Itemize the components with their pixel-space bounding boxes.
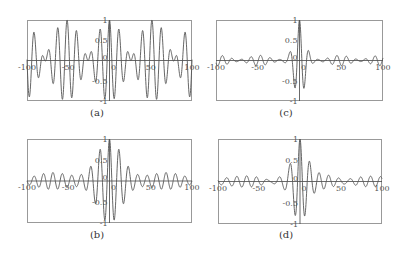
x-tick-label: 100: [184, 63, 199, 72]
y-tick-label: 1: [102, 135, 107, 144]
y-tick-label: 1: [292, 16, 297, 25]
y-tick-label: -1: [100, 97, 108, 106]
x-tick-label: -50: [62, 63, 75, 72]
y-tick-label: 0: [102, 173, 107, 182]
x-tick-label: -50: [251, 63, 264, 72]
y-tick-label: 0.5: [95, 156, 108, 165]
x-tick-label: 50: [336, 184, 346, 193]
caption-a: (a): [82, 107, 112, 118]
x-tick-label: 0: [111, 63, 116, 72]
y-tick-label: -0.5: [92, 77, 107, 86]
y-tick-label: 0: [292, 53, 297, 62]
x-tick-label: -50: [62, 183, 75, 192]
x-tick-label: 0: [301, 63, 306, 72]
caption-d: (d): [271, 229, 301, 240]
x-tick-label: -100: [207, 63, 225, 72]
y-tick-label: 1: [102, 16, 107, 25]
plot-area: -100-5005010010.50-0.5-1: [216, 20, 383, 101]
y-tick-label: -0.5: [282, 77, 297, 86]
y-tick-label: 0.5: [285, 156, 298, 165]
y-tick-label: -1: [290, 220, 298, 229]
x-tick-label: 100: [184, 183, 199, 192]
y-tick-label: -0.5: [92, 198, 107, 207]
caption-c: (c): [271, 107, 301, 118]
subplot-c: -100-5005010010.50-0.5-1: [216, 20, 383, 101]
x-tick-label: 100: [375, 63, 390, 72]
x-tick-label: 50: [146, 63, 156, 72]
x-tick-label: 100: [374, 184, 389, 193]
subplot-d: -100-5005010010.50-0.5-1: [218, 139, 382, 224]
subplot-a: -100-5005010010.50-0.5-1: [27, 20, 192, 101]
y-tick-label: -1: [100, 219, 108, 228]
y-tick-label: 1: [293, 135, 298, 144]
x-tick-label: -100: [209, 184, 227, 193]
x-tick-label: 50: [146, 183, 156, 192]
x-tick-label: 0: [301, 184, 306, 193]
x-tick-label: -50: [253, 184, 266, 193]
y-tick-label: 0.5: [95, 36, 108, 45]
y-tick-label: 0: [102, 53, 107, 62]
x-tick-label: 0: [111, 183, 116, 192]
x-tick-label: 50: [336, 63, 346, 72]
y-tick-label: -0.5: [283, 199, 298, 208]
caption-b: (b): [82, 229, 112, 240]
x-tick-label: -100: [18, 63, 36, 72]
x-tick-label: -100: [18, 183, 36, 192]
plot-area: -100-5005010010.50-0.5-1: [218, 139, 382, 224]
plot-area: -100-5005010010.50-0.5-1: [27, 139, 192, 223]
subplot-b: -100-5005010010.50-0.5-1: [27, 139, 192, 223]
plot-area: -100-5005010010.50-0.5-1: [27, 20, 192, 101]
y-tick-label: 0.5: [285, 36, 298, 45]
y-tick-label: -1: [290, 97, 298, 106]
y-tick-label: 0: [293, 174, 298, 183]
